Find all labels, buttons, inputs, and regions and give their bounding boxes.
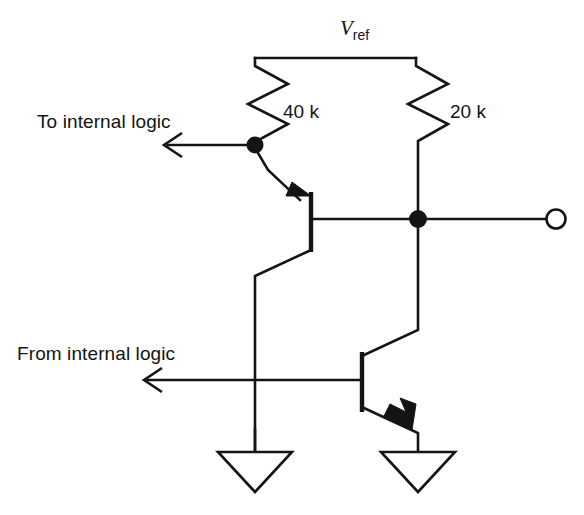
resistor-20k-zigzag [408, 58, 448, 219]
circuit-figure: Vref 40 k 20 k To internal logic From in… [0, 0, 584, 515]
resistor-40k [248, 58, 300, 200]
ground-left-triangle [218, 452, 292, 492]
schematic-canvas: Vref 40 k 20 k To internal logic From in… [0, 0, 584, 515]
output-terminal-circle[interactable] [547, 210, 566, 229]
supply-label: Vref [340, 16, 369, 43]
lower-collector-wire [362, 219, 418, 356]
to-internal-logic-label: To internal logic [37, 111, 171, 132]
resistor-40k-label: 40 k [283, 101, 319, 122]
transistor-upper-emitter-wire [255, 250, 311, 452]
to-internal-logic-arrow [164, 133, 253, 157]
output-to-lower-collector [362, 219, 418, 356]
transistor-upper-base-arrowhead [286, 182, 311, 196]
transistor-lower [148, 352, 418, 452]
resistor-20k-label: 20 k [450, 101, 486, 122]
resistor-40k-zigzag [248, 58, 288, 142]
resistor-20k [408, 58, 448, 219]
output-node-group [409, 210, 566, 229]
ground-right-triangle [381, 452, 455, 492]
supply-label-subscript: ref [353, 27, 369, 43]
ground-right [381, 452, 455, 492]
from-internal-logic-label: From internal logic [17, 343, 175, 364]
ground-left [218, 430, 292, 492]
